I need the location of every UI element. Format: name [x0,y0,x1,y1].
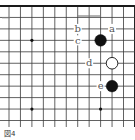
point-label-a: a [109,23,115,34]
point-label-b: b [74,23,80,34]
go-board: abcde [0,0,135,130]
figure-caption: 図4 [4,130,15,139]
star-point-icon [30,39,33,42]
scan-artifacts [2,15,101,19]
white-stone-icon [106,57,118,69]
star-point-icon [99,107,102,110]
black-stone-icon [106,80,118,92]
point-label-c: c [75,35,81,46]
point-label-e: e [98,80,104,91]
black-stone-icon [95,35,107,47]
star-point-icon [30,107,33,110]
point-label-d: d [86,57,93,68]
